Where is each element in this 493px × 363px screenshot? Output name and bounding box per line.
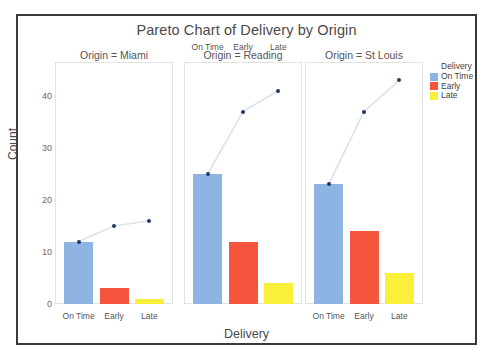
bar-late: [264, 283, 293, 304]
facet-strip-label: Origin = St Louis: [305, 49, 423, 61]
x-axis-tick-label-top: Early: [233, 42, 252, 52]
cumulative-point-marker: [147, 219, 151, 223]
facet-strip-label: Origin = Miami: [55, 49, 173, 61]
cumulative-point-marker: [112, 224, 116, 228]
x-axis-tick-label-top: Late: [270, 42, 287, 52]
cumulative-point-marker: [397, 78, 401, 82]
x-axis-tick-label: Early: [354, 311, 373, 321]
x-axis-tick-label: Late: [141, 311, 158, 321]
x-axis-tick-label: On Time: [63, 311, 95, 321]
y-axis-tick-label: 30: [26, 143, 52, 153]
bar-on-time: [314, 184, 343, 304]
y-axis-ticks: 010203040: [24, 0, 52, 363]
legend-swatch: [430, 82, 438, 90]
cumulative-point-marker: [77, 240, 81, 244]
cumulative-point-marker: [327, 182, 331, 186]
legend-item-label: Late: [441, 91, 458, 101]
y-axis-tick-label: 20: [26, 195, 52, 205]
cumulative-point-marker: [276, 89, 280, 93]
legend-title: Delivery: [430, 61, 473, 71]
bar-on-time: [193, 174, 222, 304]
cumulative-point-marker: [206, 172, 210, 176]
x-axis-tick-label: Late: [391, 311, 408, 321]
x-axis-tick-label: On Time: [313, 311, 345, 321]
y-axis-tick-label: 0: [26, 299, 52, 309]
bar-early: [350, 231, 379, 304]
chart-screenshot: Pareto Chart of Delivery by Origin Count…: [0, 0, 493, 363]
y-axis-label: Count: [6, 128, 20, 160]
bar-late: [135, 299, 164, 304]
legend-swatch: [430, 92, 438, 100]
cumulative-point-marker: [241, 110, 245, 114]
legend-entries: On TimeEarlyLate: [430, 72, 473, 101]
y-axis-tick-label: 40: [26, 91, 52, 101]
plot-area: Count 010203040 Origin = MiamiOn TimeEar…: [0, 0, 493, 363]
bar-late: [385, 273, 414, 304]
cumulative-point-marker: [362, 110, 366, 114]
x-axis-tick-label-top: On Time: [192, 42, 224, 52]
legend-item[interactable]: Late: [430, 91, 473, 101]
x-axis-tick-label: Early: [104, 311, 123, 321]
bar-on-time: [64, 242, 93, 304]
x-axis-label: Delivery: [0, 327, 493, 341]
bar-early: [100, 288, 129, 304]
legend: Delivery On TimeEarlyLate: [430, 61, 473, 101]
bar-early: [229, 242, 258, 304]
legend-swatch: [430, 73, 438, 81]
y-axis-tick-label: 10: [26, 247, 52, 257]
